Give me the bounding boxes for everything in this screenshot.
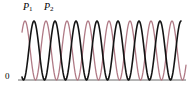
curve-p1-label-subscript: 1 xyxy=(29,5,33,13)
curve-p1-label: P1 xyxy=(23,2,33,13)
probability-density-figure: 0 P1 P2 xyxy=(0,0,188,90)
curve-p2-label: P2 xyxy=(44,2,54,13)
axis-origin-label: 0 xyxy=(5,72,10,81)
curve-canvas xyxy=(0,0,188,90)
curve-p2-label-subscript: 2 xyxy=(50,5,54,13)
